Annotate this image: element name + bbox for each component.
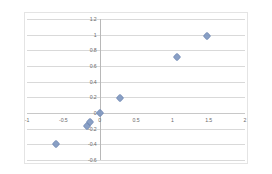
scatter-chart: -0.6-0.4-0.200.20.40.60.811.2 -1-0.500.5… xyxy=(0,0,272,174)
plot-frame xyxy=(24,12,248,164)
